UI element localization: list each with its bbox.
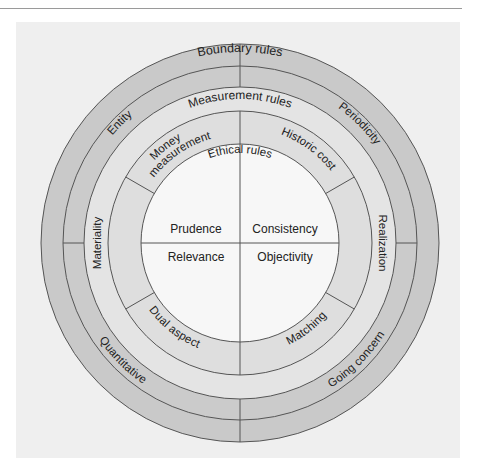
relevance-label: Relevance bbox=[168, 250, 225, 264]
realization-label: Realization bbox=[377, 215, 389, 272]
materiality-label: Materiality bbox=[91, 217, 103, 270]
accounting-rules-diagram: Boundary rules Entity Periodicity Quanti… bbox=[0, 0, 480, 473]
consistency-label: Consistency bbox=[252, 222, 317, 236]
prudence-label: Prudence bbox=[170, 222, 222, 236]
objectivity-label: Objectivity bbox=[257, 250, 312, 264]
